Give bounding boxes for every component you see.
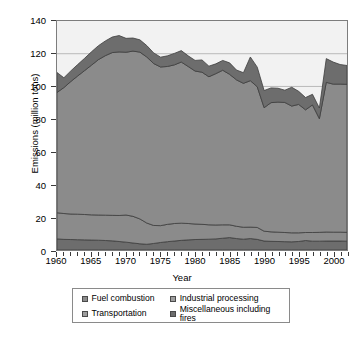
y-tick-label-40: 40 (14, 181, 46, 191)
legend-swatch-icon (170, 296, 176, 302)
y-tick-label-100: 100 (14, 82, 46, 92)
legend-swatch-icon (170, 311, 176, 317)
y-tick-label-20: 20 (14, 214, 46, 224)
legend-row: Transportation Miscellaneous including f… (73, 306, 289, 321)
area-series-2 (57, 51, 347, 233)
x-axis-title: Year (0, 272, 364, 283)
legend-item-miscellaneous: Miscellaneous including fires (170, 306, 289, 321)
y-tick-label-120: 120 (14, 49, 46, 59)
legend-swatch-icon (82, 311, 88, 317)
legend-label: Miscellaneous including fires (180, 305, 289, 323)
chart-figure: Emissions (million tons) 140 120 100 80 … (0, 0, 364, 339)
plot-area (56, 20, 348, 251)
legend-item-fuel-combustion: Fuel combustion (73, 291, 170, 306)
y-tick-label-80: 80 (14, 115, 46, 125)
y-tick-label-60: 60 (14, 148, 46, 158)
legend-label: Fuel combustion (92, 294, 155, 303)
legend-label: Industrial processing (180, 294, 259, 303)
y-tick-label-140: 140 (14, 16, 46, 26)
legend-label: Transportation (92, 309, 147, 318)
legend-swatch-icon (82, 296, 88, 302)
x-tick-label-2000: 2000 (314, 256, 354, 266)
stacked-area-svg (57, 21, 347, 250)
legend-item-transportation: Transportation (73, 306, 170, 321)
chart-legend: Fuel combustion Industrial processing Tr… (72, 288, 290, 323)
